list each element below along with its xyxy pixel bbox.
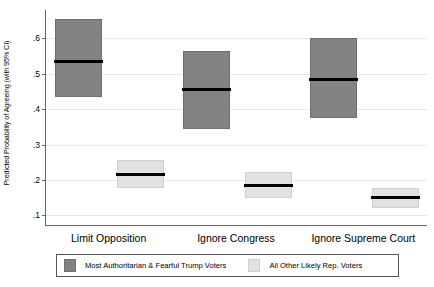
legend-label-dark: Most Authoritarian & Fearful Trump Voter… <box>85 261 226 270</box>
x-axis-label-0: Limit Opposition <box>71 232 146 244</box>
gridline <box>46 109 427 110</box>
y-axis-tick <box>42 38 46 39</box>
y-axis-tick-label: .4 <box>33 104 40 114</box>
median-estimate-line <box>244 184 293 187</box>
legend-swatch-icon-dark <box>64 259 76 272</box>
legend-item-authoritarian: Most Authoritarian & Fearful Trump Voter… <box>64 255 226 276</box>
legend-item-other: All Other Likely Rep. Voters <box>248 255 362 276</box>
median-estimate-line <box>309 78 358 81</box>
chart-legend: Most Authoritarian & Fearful Trump Voter… <box>56 254 399 277</box>
gridline <box>46 215 427 216</box>
y-axis-tick <box>42 215 46 216</box>
y-axis-tick-label: .6 <box>33 33 40 43</box>
median-estimate-line <box>54 60 103 63</box>
y-axis-tick <box>42 145 46 146</box>
gridline <box>46 145 427 146</box>
x-axis-label-2: Ignore Supreme Court <box>311 232 415 244</box>
legend-swatch-icon-light <box>248 259 260 272</box>
median-estimate-line <box>116 173 165 176</box>
y-axis-tick-label: .5 <box>33 69 40 79</box>
gridline <box>46 180 427 181</box>
gridline <box>46 38 427 39</box>
y-axis-tick <box>42 74 46 75</box>
y-axis-tick-label: .3 <box>33 140 40 150</box>
y-axis-tick-label: .1 <box>33 210 40 220</box>
confidence-interval-box <box>55 19 102 98</box>
median-estimate-line <box>182 88 231 91</box>
x-axis-label-1: Ignore Congress <box>197 232 275 244</box>
chart-figure: Predicted Probability of Agreeing (with … <box>0 0 434 287</box>
legend-label-light: All Other Likely Rep. Voters <box>269 261 362 270</box>
y-axis-tick <box>42 109 46 110</box>
gridline <box>46 74 427 75</box>
plot-area: .1.2.3.4.5.6 <box>45 10 427 226</box>
y-axis-tick-label: .2 <box>33 175 40 185</box>
median-estimate-line <box>371 196 420 199</box>
y-axis-title: Predicted Probability of Agreeing (with … <box>0 0 14 226</box>
y-axis-tick <box>42 180 46 181</box>
